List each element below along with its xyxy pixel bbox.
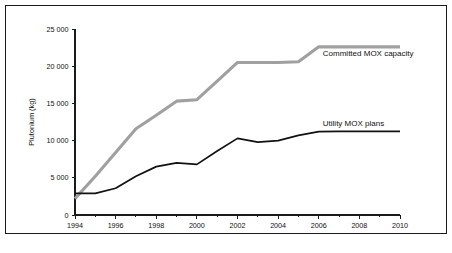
x-axis-ticks: 199419961998200020022004200620082010	[67, 215, 408, 230]
x-tick-label: 2008	[351, 221, 367, 230]
x-tick-label: 2010	[392, 221, 408, 230]
y-tick-label: 10 000	[47, 136, 69, 145]
y-tick-label: 15 000	[47, 99, 69, 108]
series-annotation-1: Utility MOX plans	[323, 119, 384, 128]
x-tick-label: 1994	[67, 221, 83, 230]
y-tick-label: 0	[65, 211, 69, 220]
y-tick-label: 5 000	[51, 173, 69, 182]
y-tick-label: 20 000	[47, 62, 69, 71]
x-tick-label: 2002	[230, 221, 246, 230]
x-tick-label: 2000	[189, 221, 205, 230]
x-tick-label: 1996	[108, 221, 124, 230]
chart-series-labels: Committed MOX capacityUtility MOX plans	[323, 49, 414, 129]
y-axis-ticks: 05 00010 00015 00020 00025 000	[47, 25, 75, 220]
series-annotation-0: Committed MOX capacity	[323, 49, 414, 58]
chart-plot-area: 05 00010 00015 00020 00025 000 199419961…	[0, 0, 452, 253]
x-tick-label: 1998	[148, 221, 164, 230]
y-axis-title: Plutonium (kg)	[27, 98, 36, 146]
x-tick-label: 2006	[311, 221, 327, 230]
x-tick-label: 2004	[270, 221, 286, 230]
y-tick-label: 25 000	[47, 25, 69, 34]
chart-figure: 05 00010 00015 00020 00025 000 199419961…	[0, 0, 452, 253]
